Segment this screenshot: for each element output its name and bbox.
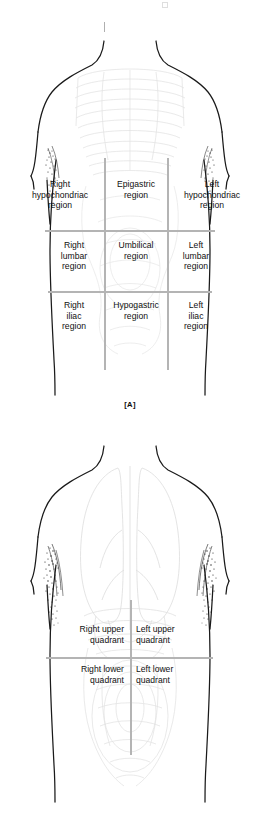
region-label-right-lumbar: Right lumbar region [44, 240, 104, 272]
panel-a-caption: [A] [0, 400, 260, 409]
gridline-vertical-median [130, 600, 132, 755]
region-label-right-hypochondriac: Right hypochondriac region [16, 179, 104, 211]
region-label-epigastric: Epigastric region [105, 179, 167, 200]
region-label-left-hypochondriac: Left hypochondriac region [168, 179, 256, 211]
region-label-left-lumbar: Left lumbar region [168, 240, 224, 272]
region-label-right-iliac: Right iliac region [44, 300, 104, 332]
page-top-artifact [104, 22, 105, 32]
region-label-umbilical: Umbilical region [105, 240, 167, 261]
gridline-horizontal-subcostal [45, 230, 215, 232]
panel-b-grid [0, 420, 260, 833]
panel-a-nine-regions: Right hypochondriac region Epigastric re… [0, 0, 260, 420]
quadrant-label-right-upper: Right upper quadrant [52, 624, 124, 645]
page-top-artifact-secondary [162, 2, 168, 8]
quadrant-label-right-lower: Right lower quadrant [52, 664, 124, 685]
panel-b-four-quadrants: Right upper quadrant Left upper quadrant… [0, 420, 260, 833]
quadrant-label-left-lower: Left lower quadrant [136, 664, 208, 685]
gridline-horizontal-intertubercular [48, 291, 212, 293]
region-label-hypogastric: Hypogastric region [104, 300, 168, 321]
quadrant-label-left-upper: Left upper quadrant [136, 624, 208, 645]
gridline-horizontal-transumbilical [46, 657, 213, 659]
region-label-left-iliac: Left iliac region [168, 300, 224, 332]
